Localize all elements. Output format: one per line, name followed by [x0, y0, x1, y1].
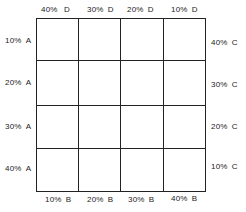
- grid-hline: [37, 105, 205, 106]
- right-label-pct: 40%: [211, 38, 228, 47]
- top-label-pct: 10%: [171, 5, 188, 14]
- bottom-label: 10%B: [45, 195, 71, 204]
- top-label-pct: 30%: [87, 5, 104, 14]
- top-label-letter: D: [192, 5, 198, 14]
- bottom-label-letter: B: [149, 195, 155, 204]
- left-label-letter: A: [26, 36, 32, 45]
- bottom-label: 30%B: [128, 195, 154, 204]
- top-label: 30%D: [87, 5, 114, 14]
- right-label: 20%C: [211, 122, 238, 131]
- left-label: 20%A: [5, 78, 31, 87]
- top-label-pct: 20%: [127, 5, 144, 14]
- bottom-label-pct: 30%: [128, 195, 145, 204]
- bottom-label-pct: 40%: [171, 194, 188, 203]
- right-label-pct: 20%: [211, 122, 228, 131]
- bottom-label-letter: B: [66, 195, 72, 204]
- bottom-label-letter: B: [108, 195, 114, 204]
- left-label-letter: A: [26, 78, 32, 87]
- right-label-pct: 30%: [211, 80, 228, 89]
- grid-hline: [37, 148, 205, 149]
- left-label: 10%A: [5, 36, 31, 45]
- bottom-label: 40%B: [171, 194, 197, 203]
- top-label: 10%D: [171, 5, 198, 14]
- top-label: 20%D: [127, 5, 154, 14]
- top-label-letter: D: [64, 5, 70, 14]
- left-label-pct: 30%: [5, 122, 22, 131]
- top-label-letter: D: [148, 5, 154, 14]
- right-label: 40%C: [211, 38, 238, 47]
- grid-hline: [37, 60, 205, 61]
- left-label: 30%A: [5, 122, 31, 131]
- right-label-letter: C: [232, 162, 238, 171]
- grid-4x4: [36, 18, 206, 192]
- top-label: 40% D: [41, 5, 70, 14]
- left-label-pct: 40%: [5, 164, 22, 173]
- top-label-letter: D: [108, 5, 114, 14]
- bottom-label: 20%B: [87, 195, 113, 204]
- left-label-pct: 20%: [5, 78, 22, 87]
- right-label-letter: C: [232, 38, 238, 47]
- right-label: 30%C: [211, 80, 238, 89]
- left-label-pct: 10%: [5, 36, 22, 45]
- left-label-letter: A: [26, 122, 32, 131]
- top-label-pct: 40%: [41, 5, 58, 14]
- right-label-pct: 10%: [211, 162, 228, 171]
- left-label: 40%A: [5, 164, 31, 173]
- bottom-label-pct: 20%: [87, 195, 104, 204]
- right-label-letter: C: [232, 80, 238, 89]
- bottom-label-letter: B: [192, 194, 198, 203]
- bottom-label-pct: 10%: [45, 195, 62, 204]
- right-label: 10%C: [211, 162, 238, 171]
- right-label-letter: C: [232, 122, 238, 131]
- left-label-letter: A: [26, 164, 32, 173]
